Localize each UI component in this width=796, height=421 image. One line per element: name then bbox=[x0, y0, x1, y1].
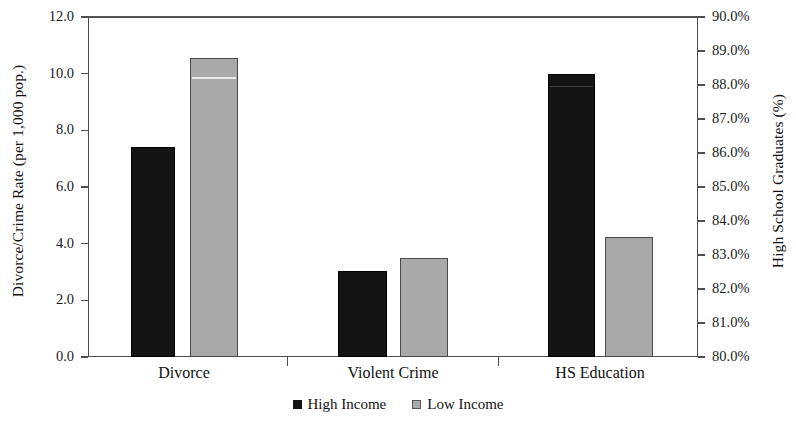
legend-item-high-income: High Income bbox=[293, 396, 387, 413]
y-axis-right-tick bbox=[698, 118, 705, 119]
y-axis-left-tick-label: 12.0 bbox=[49, 9, 74, 24]
y-axis-right-tick bbox=[698, 84, 705, 85]
x-axis-category-label: HS Education bbox=[510, 364, 690, 382]
y-axis-left-tick bbox=[81, 300, 88, 301]
chart-legend: High Income Low Income bbox=[0, 396, 796, 413]
y-axis-right-tick-label: 87.0% bbox=[712, 111, 749, 126]
y-axis-right-tick-label: 81.0% bbox=[712, 315, 749, 330]
y-axis-left-tick-label: 6.0 bbox=[56, 179, 74, 194]
y-axis-left-tick bbox=[81, 73, 88, 74]
black-square-icon bbox=[293, 400, 302, 409]
bar-hs-education-high-income[interactable] bbox=[548, 74, 595, 357]
y-axis-right-tick bbox=[698, 50, 705, 51]
y-axis-left-tick-label: 8.0 bbox=[56, 122, 74, 137]
y-axis-left-tick bbox=[81, 130, 88, 131]
y-axis-right-tick bbox=[698, 322, 705, 323]
bar-chart: Divorce/Crime Rate (per 1,000 pop.) High… bbox=[0, 0, 796, 421]
x-axis-category-separator bbox=[498, 357, 499, 366]
scan-artifact-line bbox=[192, 77, 236, 79]
y-axis-right-tick-label: 88.0% bbox=[712, 77, 749, 92]
gray-square-icon bbox=[412, 400, 421, 409]
y-axis-right-tick bbox=[698, 356, 705, 357]
y-axis-left-tick bbox=[81, 186, 88, 187]
y-axis-left-tick-label: 2.0 bbox=[56, 292, 74, 307]
y-axis-right-tick-label: 84.0% bbox=[712, 213, 749, 228]
y-axis-left-tick-label: 10.0 bbox=[49, 66, 74, 81]
legend-label-low-income: Low Income bbox=[427, 396, 503, 413]
x-axis-category-label: Divorce bbox=[94, 364, 274, 382]
y-axis-left-tick-label: 0.0 bbox=[56, 349, 74, 364]
legend-item-low-income: Low Income bbox=[412, 396, 503, 413]
y-axis-right-tick-label: 82.0% bbox=[712, 281, 749, 296]
y-axis-right-tick bbox=[698, 152, 705, 153]
bar-divorce-high-income[interactable] bbox=[131, 147, 175, 357]
y-axis-left-tick bbox=[81, 243, 88, 244]
y-axis-left-title: Divorce/Crime Rate (per 1,000 pop.) bbox=[9, 11, 27, 351]
y-axis-right-tick bbox=[698, 288, 705, 289]
y-axis-right-tick bbox=[698, 254, 705, 255]
legend-label-high-income: High Income bbox=[308, 396, 387, 413]
bar-hs-education-low-income[interactable] bbox=[605, 237, 653, 357]
y-axis-right-tick-label: 83.0% bbox=[712, 247, 749, 262]
y-axis-left-tick bbox=[81, 356, 88, 357]
bar-violent-crime-high-income[interactable] bbox=[338, 271, 387, 357]
y-axis-left-tick-label: 4.0 bbox=[56, 236, 74, 251]
y-axis-right-tick bbox=[698, 220, 705, 221]
y-axis-right-tick-label: 89.0% bbox=[712, 43, 749, 58]
y-axis-right-title: High School Graduates (%) bbox=[769, 11, 787, 351]
y-axis-right-tick-label: 85.0% bbox=[712, 179, 749, 194]
y-axis-left-tick bbox=[81, 16, 88, 17]
bar-violent-crime-low-income[interactable] bbox=[400, 258, 448, 357]
y-axis-right-tick-label: 90.0% bbox=[712, 9, 749, 24]
y-axis-right-tick bbox=[698, 16, 705, 17]
y-axis-right-tick-label: 86.0% bbox=[712, 145, 749, 160]
bar-divorce-low-income[interactable] bbox=[190, 58, 238, 357]
x-axis-category-separator bbox=[287, 357, 288, 366]
scan-artifact-line bbox=[550, 86, 593, 88]
x-axis-category-label: Violent Crime bbox=[303, 364, 483, 382]
y-axis-right-tick-label: 80.0% bbox=[712, 349, 749, 364]
y-axis-right-tick bbox=[698, 186, 705, 187]
